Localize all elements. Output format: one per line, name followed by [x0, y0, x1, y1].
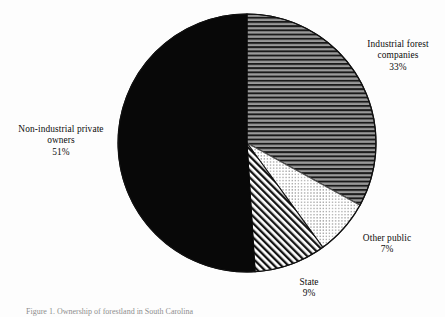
pie-label-value: 33%: [352, 62, 444, 73]
pie-label-line-2: companies: [352, 50, 444, 61]
pie-label-state: State 9%: [278, 277, 340, 300]
figure-caption: Figure 1. Ownership of forestland in Sou…: [26, 307, 436, 317]
pie-label-line-1: Other public: [345, 233, 429, 244]
pie-label-line-1: State: [278, 277, 340, 288]
pie-label-industrial-forest-companies: Industrial forest companies 33%: [352, 39, 444, 73]
pie-label-value: 7%: [345, 244, 429, 255]
pie-slice-non-industrial-private-owners[interactable]: [118, 14, 255, 272]
pie-label-value: 51%: [2, 147, 120, 158]
pie-label-line-1: Industrial forest: [352, 39, 444, 50]
pie-label-line-1: Non-industrial private: [2, 124, 120, 135]
pie-label-non-industrial-private-owners: Non-industrial private owners 51%: [2, 124, 120, 158]
pie-label-value: 9%: [278, 288, 340, 299]
pie-label-other-public: Other public 7%: [345, 233, 429, 256]
pie-chart-figure: Industrial forest companies 33% Non-indu…: [0, 0, 445, 317]
pie-slices: [118, 14, 376, 272]
pie-label-line-2: owners: [2, 135, 120, 146]
